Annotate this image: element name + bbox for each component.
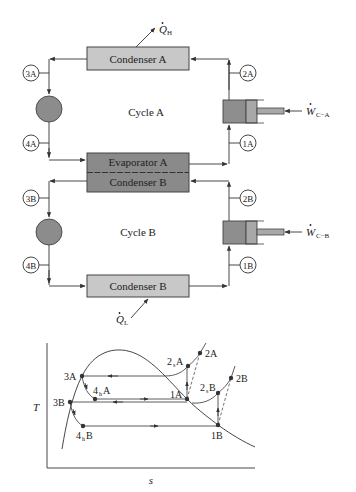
heat-in-arrow — [131, 299, 148, 318]
y-axis-label: T — [33, 401, 40, 413]
point-1b — [216, 423, 220, 427]
cycle-b-label: Cycle B — [120, 226, 156, 238]
svg-text:Q: Q — [116, 313, 124, 325]
svg-text:B: B — [209, 382, 216, 393]
svg-text:4: 4 — [76, 430, 81, 441]
cascade-refrigeration-diagram: Condenser A Q H 3A 4A Cycle A — [0, 0, 356, 492]
svg-text:3A: 3A — [26, 69, 38, 79]
svg-text:W: W — [306, 226, 316, 238]
svg-text:C−A: C−A — [316, 111, 330, 119]
cycle-a-label: Cycle A — [128, 106, 164, 118]
condenser-b-lower-label: Condenser B — [109, 280, 166, 292]
label-1b: 1B — [211, 430, 223, 441]
cycle-b-schematic: 3B 4B Cycle B Condenser B Q L 1B — [23, 181, 330, 327]
svg-text:A: A — [103, 385, 111, 396]
label-4hb: 4 h B — [76, 430, 93, 442]
point-2sa — [186, 364, 190, 368]
point-2a — [198, 351, 202, 355]
evaporator-a-label: Evaporator A — [109, 156, 168, 168]
label-2sa: 2 s A — [167, 356, 184, 368]
cascade-heat-exchanger: Evaporator A Condenser B — [87, 153, 189, 192]
svg-text:B: B — [86, 430, 93, 441]
svg-text:h: h — [99, 391, 102, 397]
point-2b — [229, 376, 233, 380]
svg-text:3B: 3B — [26, 194, 37, 204]
svg-text:L: L — [124, 319, 128, 327]
svg-text:4: 4 — [93, 385, 98, 396]
label-3a: 3A — [64, 371, 77, 382]
label-2sb: 2 s B — [200, 382, 216, 394]
point-4hb — [81, 424, 85, 428]
heat-out-arrow — [136, 28, 155, 47]
svg-text:A: A — [176, 356, 184, 367]
work-a-label: W C−A — [306, 103, 330, 119]
point-3a — [80, 374, 84, 378]
svg-text:C−B: C−B — [316, 232, 330, 240]
svg-text:2B: 2B — [243, 194, 254, 204]
svg-text:2: 2 — [167, 356, 172, 367]
svg-text:1A: 1A — [243, 139, 255, 149]
cycle-a-schematic: Condenser A Q H 3A 4A Cycle A — [23, 22, 330, 164]
svg-text:2: 2 — [200, 382, 205, 393]
point-1a — [185, 397, 189, 401]
svg-text:W: W — [306, 105, 316, 117]
svg-text:h: h — [82, 436, 85, 442]
heat-in-label: Q L — [116, 312, 128, 327]
work-b-label: W C−B — [306, 224, 330, 240]
label-2b: 2B — [236, 373, 248, 384]
compressor-a — [223, 100, 284, 123]
point-2sb — [216, 391, 220, 395]
svg-text:Q: Q — [159, 23, 167, 35]
svg-text:1B: 1B — [243, 261, 254, 271]
label-3b: 3B — [53, 397, 65, 408]
compressor-b — [223, 221, 284, 244]
expansion-valve-a — [36, 96, 62, 122]
condenser-b-upper-label: Condenser B — [109, 176, 166, 188]
condenser-a-label: Condenser A — [109, 53, 166, 65]
svg-text:2A: 2A — [243, 69, 255, 79]
label-2a: 2A — [205, 348, 218, 359]
svg-text:H: H — [167, 29, 172, 37]
x-axis-label: s — [149, 474, 153, 486]
label-1a: 1A — [170, 389, 183, 400]
point-3b — [68, 400, 72, 404]
ts-diagram: T s — [33, 343, 255, 486]
svg-text:4A: 4A — [26, 139, 38, 149]
heat-out-label: Q H — [159, 22, 172, 37]
point-4ha — [93, 397, 97, 401]
label-4ha: 4 h A — [93, 385, 111, 397]
expansion-valve-b — [36, 219, 62, 245]
svg-text:4B: 4B — [26, 261, 37, 271]
